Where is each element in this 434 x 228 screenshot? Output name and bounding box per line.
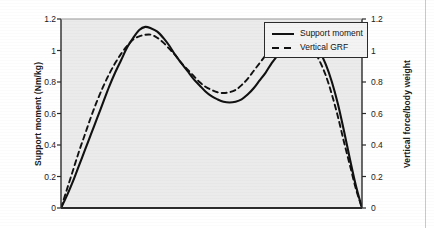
chart-figure: Support moment (Nm/kg) Vertical force/bo…	[0, 0, 434, 228]
legend-item-vertical-grf: Vertical GRF	[272, 41, 367, 54]
legend-line-dashed-icon	[272, 43, 294, 53]
legend-line-solid-icon	[272, 29, 294, 39]
legend-item-support-moment: Support moment	[272, 27, 367, 40]
legend-label-vertical-grf: Vertical GRF	[300, 43, 348, 52]
chart-legend: Support moment Vertical GRF	[264, 22, 368, 58]
plot-area	[0, 0, 434, 228]
legend-label-support-moment: Support moment	[300, 29, 363, 38]
